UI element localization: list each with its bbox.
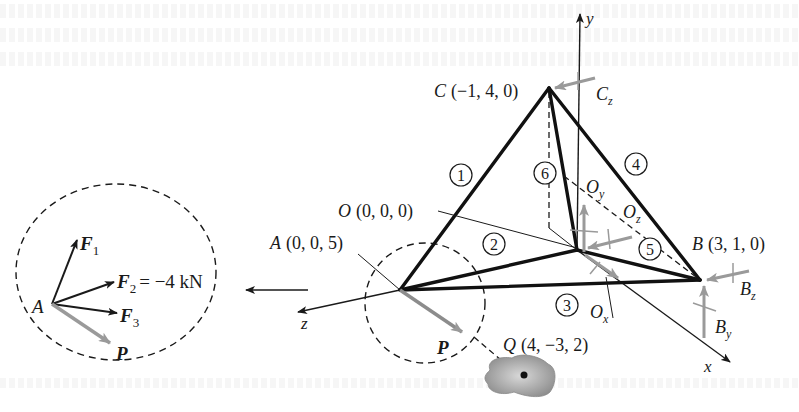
oy-label: Oy [586, 177, 605, 201]
joint-a-detail: A F1 F2= −4 kN F3 P [16, 184, 216, 364]
cz-label: Cz [596, 84, 613, 108]
joint-a-label: A [30, 296, 44, 317]
ox-label: Ox [590, 302, 609, 326]
f1-label: F1 [79, 233, 99, 258]
oz-label: Oz [623, 202, 641, 226]
joint-a-highlight-circle [365, 243, 485, 363]
rigid-body-blob [485, 355, 555, 397]
z-axis-label: z [300, 314, 308, 333]
oz-tick [608, 229, 610, 249]
point-c-label: C(−1, 4, 0) [434, 81, 518, 102]
f2-label: F2= −4 kN [116, 271, 203, 296]
point-q-dot [521, 372, 528, 379]
point-o-label: O(0, 0, 0) [338, 201, 413, 222]
f1-arrow-icon [52, 240, 77, 304]
point-q-label: Q(4, −3, 2) [503, 335, 588, 356]
member-1-label: 1 [457, 167, 465, 184]
member-5-label: 5 [646, 241, 654, 258]
y-axis-label: y [584, 9, 594, 28]
o-leader-line [438, 211, 577, 248]
a-leader-line [358, 254, 400, 290]
load-p-arrow-icon [400, 290, 462, 332]
cz-arrow-icon [555, 78, 595, 88]
detail-p-label: P [115, 343, 128, 364]
f3-label: F3 [119, 305, 139, 330]
member-3-label: 3 [563, 297, 571, 314]
point-a-label: A(0, 0, 5) [269, 233, 343, 254]
f2-arrow-icon [52, 282, 114, 304]
member-6-label: 6 [541, 165, 549, 182]
by-label: By [715, 317, 732, 341]
z-axis [298, 290, 400, 312]
truss-members [400, 88, 700, 290]
point-b-label: B(3, 1, 0) [692, 234, 765, 255]
load-p-label: P [436, 337, 449, 358]
x-axis-label: x [703, 357, 712, 376]
bz-label: Bz [740, 279, 756, 303]
member-4-label: 4 [632, 156, 640, 173]
member-2-label: 2 [490, 236, 498, 253]
y-axis [577, 14, 580, 250]
space-truss-diagram: A F1 F2= −4 kN F3 P y x z [0, 0, 799, 412]
reaction-forces [555, 72, 749, 338]
